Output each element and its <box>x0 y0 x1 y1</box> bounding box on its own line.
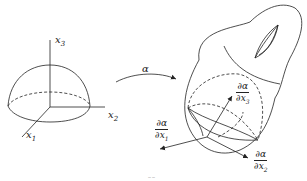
half-ball <box>8 40 105 137</box>
tangent-vectors <box>160 96 248 158</box>
caption-fragment: ‾‾ <box>148 176 156 181</box>
label-dalpha-dx2: ∂α ∂x2 <box>254 150 268 173</box>
hole-upper <box>255 25 278 58</box>
dome-outline <box>8 65 90 106</box>
target-surface <box>185 5 302 153</box>
hole-lower <box>259 25 278 55</box>
label-x3: x3 <box>55 35 65 48</box>
base-back <box>8 92 90 106</box>
map-arrow <box>116 74 176 82</box>
label-dalpha-dx1: ∂α ∂x1 <box>155 119 169 142</box>
neck-curve <box>224 46 280 84</box>
label-dalpha-dx3: ∂α ∂x3 <box>236 82 250 105</box>
label-alpha: α <box>142 64 149 74</box>
surface-outline <box>185 5 302 153</box>
label-x1: x1 <box>26 130 36 143</box>
label-x2: x2 <box>108 110 118 123</box>
